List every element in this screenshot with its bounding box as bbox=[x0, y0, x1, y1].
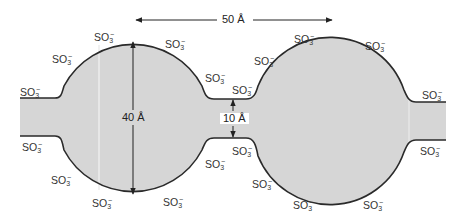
sulfonate-group-label: SO3− bbox=[422, 89, 442, 102]
cluster-diameter-label: 40 Å bbox=[121, 112, 146, 123]
sulfonate-group-label: SO3− bbox=[52, 53, 72, 66]
channel-width-label: 10 Å bbox=[220, 113, 249, 124]
sulfonate-group-label: SO3− bbox=[294, 33, 314, 46]
cluster-spacing-label: 50 Å bbox=[219, 14, 248, 25]
sulfonate-group-label: SO3− bbox=[254, 55, 274, 68]
sulfonate-group-label: SO3− bbox=[165, 38, 185, 51]
sulfonate-group-label: SO3− bbox=[205, 72, 225, 85]
sulfonate-group-label: SO3− bbox=[363, 199, 383, 212]
sulfonate-group-label: SO3− bbox=[51, 174, 71, 187]
sulfonate-group-label: SO3− bbox=[365, 40, 385, 53]
pore-diagram bbox=[0, 0, 468, 221]
sulfonate-group-label: SO3− bbox=[92, 197, 112, 210]
sulfonate-group-label: SO3− bbox=[232, 145, 252, 158]
sulfonate-group-label: SO3− bbox=[293, 199, 313, 212]
sulfonate-group-label: SO3− bbox=[252, 178, 272, 191]
sulfonate-group-label: SO3− bbox=[163, 196, 183, 209]
sulfonate-group-label: SO3− bbox=[94, 31, 114, 44]
sulfonate-group-label: SO3− bbox=[420, 145, 440, 158]
sulfonate-group-label: SO3− bbox=[20, 86, 40, 99]
sulfonate-group-label: SO3− bbox=[205, 158, 225, 171]
sulfonate-group-label: SO3− bbox=[232, 84, 252, 97]
sulfonate-group-label: SO3− bbox=[22, 141, 42, 154]
